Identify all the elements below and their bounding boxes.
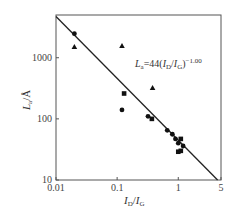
- square-marker: [150, 117, 155, 122]
- circle-marker: [165, 128, 170, 133]
- fit-equation: La=44(ID/IG)−1.00: [134, 57, 202, 71]
- plot-frame: [56, 15, 221, 180]
- square-marker: [178, 149, 183, 154]
- x-axis-label: ID/IG: [123, 194, 145, 208]
- circle-marker: [176, 141, 181, 146]
- x-tick-label: 0.1: [111, 182, 124, 193]
- square-marker: [122, 91, 127, 96]
- circle-marker: [170, 132, 175, 137]
- axis-ticks: 0.010.115101001000: [32, 52, 224, 193]
- triangle-marker: [150, 85, 156, 90]
- circle-marker: [181, 144, 186, 149]
- square-marker: [178, 137, 183, 142]
- scatter-chart: 0.010.115101001000 La=44(ID/IG)−1.00 ID/…: [0, 0, 234, 220]
- x-tick-label: 1: [176, 182, 181, 193]
- triangle-marker: [72, 44, 78, 49]
- circle-marker: [173, 137, 178, 142]
- y-tick-label: 10: [42, 174, 52, 185]
- fit-line: [56, 16, 218, 180]
- y-tick-label: 1000: [32, 52, 52, 63]
- y-tick-label: 100: [37, 113, 52, 124]
- y-axis-label: La/Å: [20, 90, 34, 111]
- circle-marker: [72, 31, 77, 36]
- x-tick-label: 5: [219, 182, 224, 193]
- circle-marker: [120, 108, 125, 113]
- triangle-marker: [119, 43, 125, 48]
